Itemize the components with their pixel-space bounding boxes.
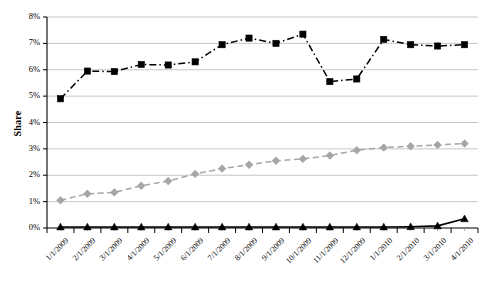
y-tick-label: 5% — [14, 91, 40, 100]
data-point-square — [381, 36, 387, 42]
data-point-diamond — [300, 155, 307, 162]
data-point-square — [192, 59, 198, 65]
data-point-triangle — [461, 215, 469, 222]
data-point-diamond — [246, 161, 253, 168]
y-tick-label: 7% — [14, 38, 40, 47]
y-tick-label: 0% — [14, 223, 40, 232]
data-point-square — [354, 76, 360, 82]
axis-tick-marks — [43, 17, 478, 233]
y-tick-label: 3% — [14, 144, 40, 153]
data-series-layer — [57, 31, 469, 230]
data-point-diamond — [353, 147, 360, 154]
data-point-square — [461, 42, 467, 48]
data-point-square — [111, 68, 117, 74]
y-tick-label: 1% — [14, 197, 40, 206]
data-point-diamond — [192, 171, 199, 178]
data-point-square — [273, 40, 279, 46]
series-line — [60, 219, 464, 227]
data-point-diamond — [461, 140, 468, 147]
series-line — [60, 144, 464, 201]
series-squares — [57, 31, 467, 102]
series-diamonds — [57, 140, 468, 204]
data-point-square — [84, 68, 90, 74]
share-trend-chart: Share 0%1%2%3%4%5%6%7%8% 1/1/20092/1/200… — [0, 0, 492, 286]
data-point-square — [300, 31, 306, 37]
y-tick-label: 6% — [14, 65, 40, 74]
data-point-square — [246, 35, 252, 41]
data-point-diamond — [380, 144, 387, 151]
y-tick-label: 4% — [14, 118, 40, 127]
data-point-square — [138, 61, 144, 67]
data-point-diamond — [165, 178, 172, 185]
data-point-diamond — [273, 157, 280, 164]
series-line — [60, 34, 464, 99]
data-point-diamond — [326, 152, 333, 159]
data-point-diamond — [434, 142, 441, 149]
data-point-square — [408, 42, 414, 48]
y-tick-label: 2% — [14, 170, 40, 179]
data-point-square — [219, 42, 225, 48]
gridlines — [47, 17, 478, 228]
data-point-diamond — [138, 182, 145, 189]
data-point-diamond — [84, 190, 91, 197]
data-point-diamond — [57, 197, 64, 204]
data-point-square — [327, 79, 333, 85]
data-point-square — [57, 96, 63, 102]
data-point-square — [165, 62, 171, 68]
data-point-diamond — [111, 189, 118, 196]
data-point-square — [434, 43, 440, 49]
data-point-diamond — [219, 165, 226, 172]
y-tick-label: 8% — [14, 12, 40, 21]
